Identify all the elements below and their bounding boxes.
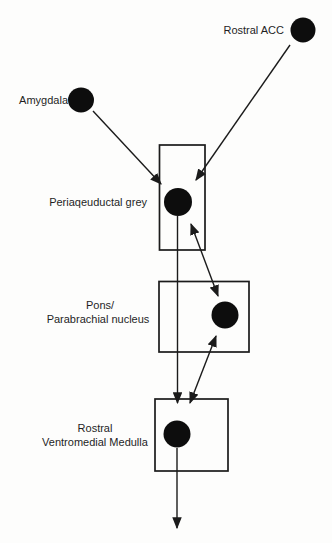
- edge-pons-rvm-bidirectional-arrow: [190, 336, 216, 403]
- rvm-node-circle: [164, 421, 191, 448]
- amygdala-label: Amygdala: [19, 94, 69, 106]
- pain-pathway-diagram: Rostral ACC Amygdala Periaqeuductal grey…: [0, 0, 332, 543]
- periaqueductal-grey-node-circle: [164, 188, 192, 216]
- amygdala-node-circle: [68, 88, 94, 113]
- rostral-acc-node-circle: [291, 18, 316, 43]
- pons-parabrachial-node-circle: [212, 302, 239, 329]
- node-rostral-ventromedial-medulla: Rostral Ventromedial Medulla: [42, 399, 228, 471]
- rvm-label-line2: Ventromedial Medulla: [42, 436, 149, 448]
- rostral-acc-label: Rostral ACC: [223, 24, 284, 36]
- node-periaqueductal-grey: Periaqeuductal grey: [49, 145, 205, 250]
- node-pons-parabrachial: Pons/ Parabrachial nucleus: [47, 282, 249, 353]
- edge-amygdala-to-pag-arrow: [93, 111, 161, 184]
- pons-label-line2: Parabrachial nucleus: [47, 313, 150, 325]
- edges: [93, 45, 290, 528]
- pons-label-line1: Pons/: [86, 299, 115, 311]
- periaqueductal-grey-label: Periaqeuductal grey: [49, 196, 147, 208]
- rvm-label-line1: Rostral: [78, 422, 113, 434]
- pathway-diagram-canvas: Rostral ACC Amygdala Periaqeuductal grey…: [0, 0, 332, 543]
- node-rostral-acc: Rostral ACC: [223, 18, 315, 43]
- node-amygdala: Amygdala: [19, 88, 94, 113]
- edge-rostral-acc-to-pag-arrow: [196, 45, 290, 180]
